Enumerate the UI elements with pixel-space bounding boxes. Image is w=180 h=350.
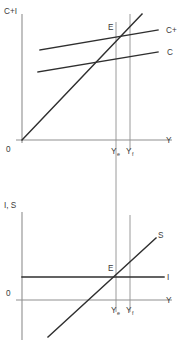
lower-equilibrium-label: E [108,264,114,273]
lower-xtick-ye-sub: e [117,310,120,316]
lower-x-axis-label: Y [166,296,172,305]
figure-root: C+I Y 0 C+ C E Y e Y f [0,0,180,350]
i-curve-label: I [167,273,169,282]
upper-x-axis-label: Y [166,136,172,145]
lower-xtick-yf: Y f [126,306,134,316]
c-plus-i-curve-label: C+ [166,26,177,35]
lower-xtick-ye: Y e [111,306,120,316]
lower-panel: I, S Y 0 S I E Y e Y f [4,201,172,340]
upper-xtick-ye: Y e [111,147,120,157]
s-curve [48,238,156,337]
upper-xtick-yf-sub: f [132,151,134,157]
upper-xtick-yf: Y f [126,147,134,157]
upper-equilibrium-label: E [108,23,114,32]
forty-five-degree-line [22,14,142,140]
c-curve [38,52,158,72]
lower-origin-label: 0 [6,289,11,298]
upper-origin-label: 0 [6,145,11,154]
lower-y-axis-label: I, S [4,201,17,210]
lower-xtick-yf-sub: f [132,310,134,316]
c-plus-i-curve [40,30,158,50]
s-curve-label: S [158,231,164,240]
c-curve-label: C [167,48,173,57]
upper-xtick-ye-sub: e [117,151,120,157]
upper-y-axis-label: C+I [4,7,17,16]
upper-panel: C+I Y 0 C+ C E Y e Y f [4,7,177,157]
economics-diagram-svg: C+I Y 0 C+ C E Y e Y f [0,0,180,350]
